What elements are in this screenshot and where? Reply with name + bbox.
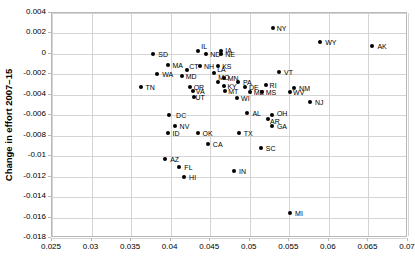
gridline-vertical — [368, 13, 369, 236]
gridline-horizontal — [52, 238, 406, 239]
x-tick-mark — [209, 238, 210, 241]
gridline-vertical — [171, 13, 172, 236]
gridline-vertical — [289, 13, 290, 236]
data-point-label: MS — [266, 89, 277, 96]
gridline-vertical — [250, 13, 251, 236]
y-tick-label: 0.004 — [0, 8, 46, 16]
scatter-chart: Change in effort 2007–15 SDILNDIANENYWYA… — [0, 0, 415, 276]
data-point-label: NJ — [315, 99, 324, 106]
gridline-vertical — [131, 13, 132, 236]
data-point-label: AZ — [170, 156, 179, 163]
gridline-vertical — [210, 13, 211, 236]
gridline-vertical — [52, 13, 53, 236]
y-tick-label: -0.01 — [0, 151, 46, 159]
x-tick-label: 0.025 — [31, 243, 71, 251]
data-point-marker — [243, 85, 247, 89]
data-point-marker — [288, 211, 292, 215]
data-point-label: CA — [213, 141, 223, 148]
x-tick-label: 0.03 — [71, 243, 111, 251]
x-tick-mark — [407, 238, 408, 241]
data-point-label: MD — [186, 73, 197, 80]
data-point-marker — [370, 44, 374, 48]
x-tick-label: 0.045 — [189, 243, 229, 251]
data-point-marker — [271, 26, 275, 30]
data-point-marker — [277, 70, 281, 74]
data-point-label: AK — [377, 43, 386, 50]
gridline-horizontal — [52, 95, 406, 96]
y-tick-mark — [48, 53, 51, 54]
x-tick-mark — [288, 238, 289, 241]
y-tick-label: -0.018 — [0, 233, 46, 241]
data-point-marker — [182, 175, 186, 179]
data-point-label: ID — [173, 130, 180, 137]
gridline-vertical — [408, 13, 409, 236]
x-tick-mark — [130, 238, 131, 241]
y-tick-label: 0 — [0, 49, 46, 57]
data-point-label: MT — [228, 88, 238, 95]
y-tick-mark — [48, 217, 51, 218]
gridline-horizontal — [52, 177, 406, 178]
data-point-label: IL — [201, 43, 207, 50]
gridline-horizontal — [52, 136, 406, 137]
data-point-marker — [155, 72, 159, 76]
data-point-marker — [232, 169, 236, 173]
data-point-marker — [177, 165, 181, 169]
data-point-label: OK — [203, 130, 213, 137]
data-point-label: WI — [241, 95, 250, 102]
data-point-marker — [259, 146, 263, 150]
gridline-horizontal — [52, 197, 406, 198]
x-tick-mark — [328, 238, 329, 241]
y-tick-label: -0.014 — [0, 192, 46, 200]
data-point-marker — [219, 52, 223, 56]
data-point-label: OH — [277, 110, 288, 117]
data-point-label: RI — [270, 82, 277, 89]
data-point-marker — [204, 52, 208, 56]
x-tick-label: 0.06 — [308, 243, 348, 251]
data-point-label: SD — [158, 51, 168, 58]
y-tick-label: -0.008 — [0, 131, 46, 139]
y-tick-mark — [48, 196, 51, 197]
data-point-marker — [139, 85, 143, 89]
data-point-label: SC — [266, 145, 276, 152]
data-point-label: NY — [277, 25, 287, 32]
data-point-marker — [248, 90, 252, 94]
data-point-label: UT — [195, 94, 204, 101]
x-tick-mark — [51, 238, 52, 241]
data-point-label: WV — [293, 89, 304, 96]
gridline-horizontal — [52, 33, 406, 34]
x-tick-mark — [249, 238, 250, 241]
y-tick-mark — [48, 114, 51, 115]
data-point-label: NV — [180, 123, 190, 130]
x-tick-label: 0.05 — [229, 243, 269, 251]
gridline-horizontal — [52, 13, 406, 14]
x-tick-label: 0.04 — [150, 243, 190, 251]
y-tick-label: -0.006 — [0, 110, 46, 118]
y-tick-label: 0.002 — [0, 28, 46, 36]
y-tick-mark — [48, 73, 51, 74]
data-point-label: GA — [277, 123, 287, 130]
data-point-marker — [196, 49, 200, 53]
data-point-label: WY — [325, 39, 336, 46]
data-point-marker — [180, 74, 184, 78]
x-tick-label: 0.065 — [347, 243, 387, 251]
data-point-label: NH — [204, 63, 214, 70]
data-point-label: FL — [184, 164, 192, 171]
y-tick-mark — [48, 176, 51, 177]
data-point-marker — [235, 96, 239, 100]
data-point-marker — [223, 89, 227, 93]
data-point-marker — [166, 63, 170, 67]
x-tick-mark — [367, 238, 368, 241]
data-point-label: MO — [218, 74, 229, 81]
x-tick-mark — [91, 238, 92, 241]
data-point-label: MI — [295, 210, 303, 217]
data-point-marker — [167, 113, 171, 117]
data-point-marker — [191, 89, 195, 93]
x-tick-label: 0.035 — [110, 243, 150, 251]
data-point-label: TX — [244, 130, 253, 137]
y-tick-mark — [48, 135, 51, 136]
data-point-label: VT — [284, 69, 293, 76]
data-point-marker — [237, 131, 241, 135]
data-point-label: DC — [176, 112, 186, 119]
data-point-marker — [196, 131, 200, 135]
x-tick-label: 0.055 — [268, 243, 308, 251]
